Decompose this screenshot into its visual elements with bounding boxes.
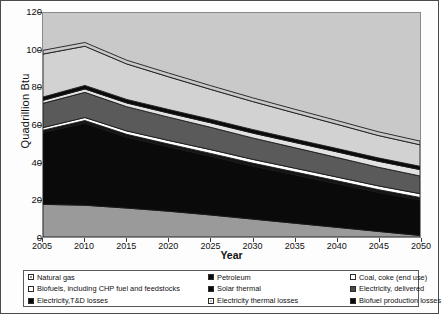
legend-item-label: Coal, coke (end use) bbox=[359, 274, 427, 281]
legend-swatch-icon bbox=[28, 298, 34, 304]
x-tick-mark bbox=[42, 238, 43, 242]
legend-item[interactable]: Petroleum bbox=[208, 272, 350, 284]
y-axis-ticks: 020406080100120 bbox=[1, 1, 42, 249]
x-tick-mark bbox=[337, 238, 338, 242]
legend-item[interactable]: Electricity thermal losses bbox=[208, 295, 350, 307]
x-tick-mark bbox=[295, 238, 296, 242]
legend-item-label: Electricity, delivered bbox=[359, 285, 424, 292]
legend-swatch-icon bbox=[208, 274, 214, 280]
legend-item-label: Petroleum bbox=[217, 274, 251, 281]
legend-swatch-icon bbox=[350, 298, 356, 304]
legend-swatch-icon bbox=[28, 274, 34, 280]
legend-item[interactable]: Biofuel production losses bbox=[350, 295, 441, 307]
legend-item-label: Biofuel production losses bbox=[359, 297, 441, 304]
legend-item[interactable]: Electricity, delivered bbox=[350, 283, 441, 295]
legend-swatch-icon bbox=[350, 286, 356, 292]
legend-swatch-icon bbox=[208, 286, 214, 292]
x-tick-mark bbox=[379, 238, 380, 242]
x-tick-mark bbox=[210, 238, 211, 242]
legend-item[interactable]: Natural gas bbox=[28, 272, 208, 284]
chart-legend: Natural gasPetroleumCoal, coke (end use)… bbox=[23, 270, 419, 307]
x-tick-mark bbox=[253, 238, 254, 242]
legend-item-label: Biofuels, including CHP fuel and feedsto… bbox=[37, 285, 180, 292]
x-axis-label: Year bbox=[42, 249, 421, 261]
legend-item[interactable]: Coal, coke (end use) bbox=[350, 272, 441, 284]
chart-area: Quadrillion Btu 020406080100120 20052010… bbox=[1, 1, 440, 263]
plot-region bbox=[42, 12, 421, 238]
x-tick-mark bbox=[168, 238, 169, 242]
legend-item[interactable]: Solar thermal bbox=[208, 283, 350, 295]
legend-swatch-icon bbox=[208, 298, 214, 304]
x-tick-mark bbox=[126, 238, 127, 242]
legend-item-label: Electricity thermal losses bbox=[217, 297, 298, 304]
legend-item[interactable]: Electricity,T&D losses bbox=[28, 295, 208, 307]
stacked-area-svg bbox=[43, 13, 420, 237]
x-tick-mark bbox=[84, 238, 85, 242]
legend-item-label: Solar thermal bbox=[217, 285, 261, 292]
legend-item[interactable]: Biofuels, including CHP fuel and feedsto… bbox=[28, 283, 208, 295]
legend-swatch-icon bbox=[28, 286, 34, 292]
legend-swatch-icon bbox=[350, 274, 356, 280]
x-tick-mark bbox=[421, 238, 422, 242]
legend-item-label: Electricity,T&D losses bbox=[37, 297, 108, 304]
legend-item-label: Natural gas bbox=[37, 274, 75, 281]
